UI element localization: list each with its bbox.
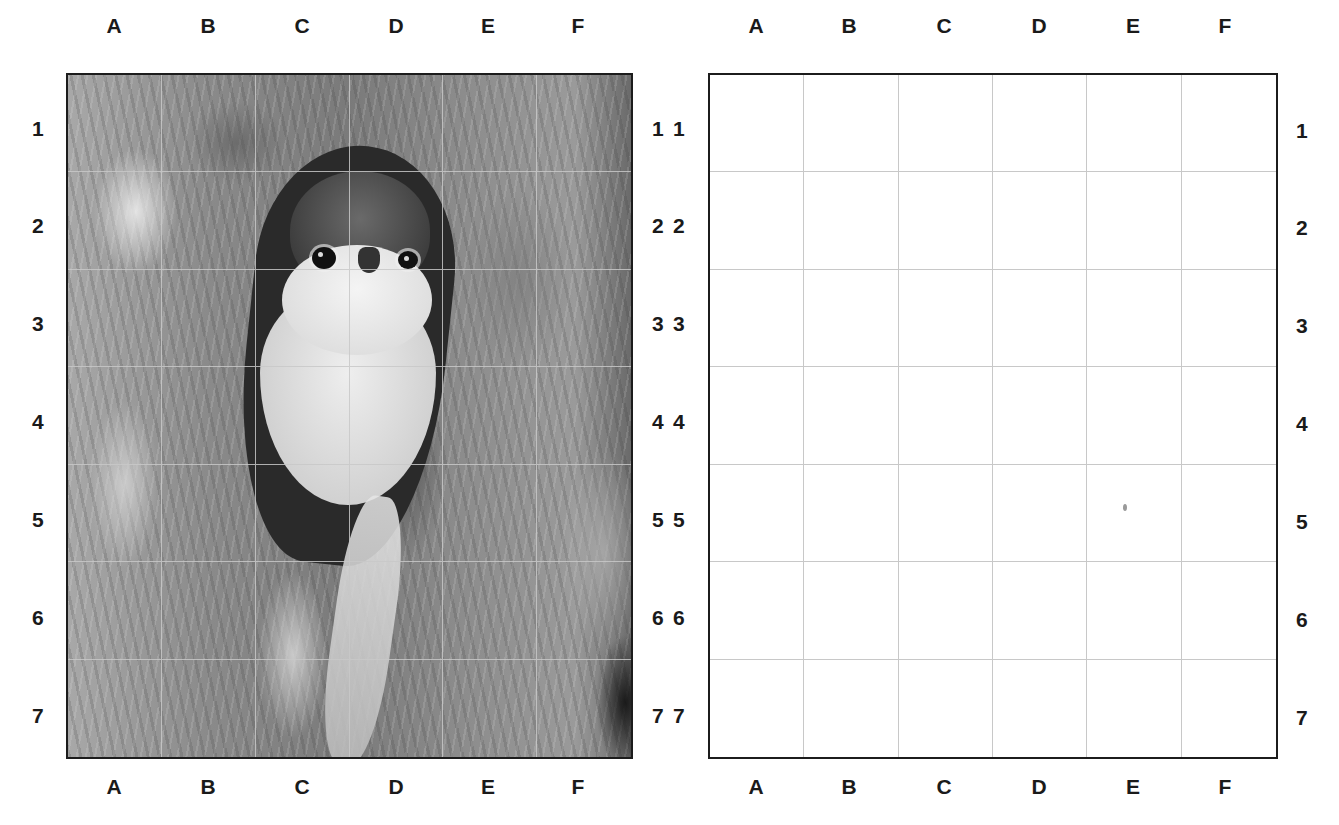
row-label: 3 [652,312,664,336]
cell-A4[interactable] [710,367,804,464]
col-label: C [929,14,959,38]
cell-A2[interactable] [710,172,804,269]
cell-B3[interactable] [804,270,898,367]
col-label: D [1024,14,1054,38]
reference-photo-grid [66,73,633,759]
row-label: 4 [32,410,44,434]
cell-E1[interactable] [1087,75,1181,172]
cell-A3[interactable] [710,270,804,367]
cell-E4[interactable] [1087,367,1181,464]
cell-A1[interactable] [710,75,804,172]
cell-E3[interactable] [1087,270,1181,367]
col-label: D [381,775,411,799]
caption-cut-off [0,0,1339,8]
row-label: 2 [673,214,685,238]
cell-B2[interactable] [804,172,898,269]
col-label: F [563,775,593,799]
cell-C7[interactable] [899,660,993,757]
cell-E2[interactable] [1087,172,1181,269]
row-label: 6 [1296,608,1308,632]
col-label: A [741,775,771,799]
blank-drawing-grid[interactable] [708,73,1278,759]
row-label: 4 [652,410,664,434]
col-label: E [1118,14,1148,38]
col-label: B [193,14,223,38]
col-label: B [193,775,223,799]
row-label: 1 [1296,119,1308,143]
row-label: 7 [652,704,664,728]
cell-D2[interactable] [993,172,1087,269]
row-label: 3 [32,312,44,336]
col-label: F [563,14,593,38]
cell-C5[interactable] [899,465,993,562]
row-label: 3 [673,312,685,336]
cell-F6[interactable] [1182,562,1276,659]
row-label: 5 [652,508,664,532]
cell-F1[interactable] [1182,75,1276,172]
row-label: 6 [652,606,664,630]
cell-D5[interactable] [993,465,1087,562]
cell-A6[interactable] [710,562,804,659]
cell-B1[interactable] [804,75,898,172]
row-label: 1 [32,117,44,141]
row-label: 5 [673,508,685,532]
row-label: 4 [673,410,685,434]
cell-E6[interactable] [1087,562,1181,659]
row-label: 2 [32,214,44,238]
cell-C3[interactable] [899,270,993,367]
cell-C2[interactable] [899,172,993,269]
cell-D6[interactable] [993,562,1087,659]
photo-gridlines [68,75,631,757]
col-label: D [1024,775,1054,799]
row-label: 6 [673,606,685,630]
cell-E5[interactable] [1087,465,1181,562]
row-label: 1 [673,117,685,141]
cell-D7[interactable] [993,660,1087,757]
cell-B4[interactable] [804,367,898,464]
col-label: A [741,14,771,38]
cell-E7[interactable] [1087,660,1181,757]
cell-F7[interactable] [1182,660,1276,757]
cell-C4[interactable] [899,367,993,464]
col-label: A [99,775,129,799]
row-label: 6 [32,606,44,630]
col-label: B [834,14,864,38]
col-label: E [1118,775,1148,799]
col-label: F [1210,14,1240,38]
col-label: E [473,14,503,38]
row-label: 7 [32,704,44,728]
row-label: 5 [1296,510,1308,534]
blank-gridlines [710,75,1276,757]
row-label: 2 [1296,216,1308,240]
cell-C1[interactable] [899,75,993,172]
cell-F3[interactable] [1182,270,1276,367]
cell-C6[interactable] [899,562,993,659]
row-label: 4 [1296,412,1308,436]
cell-F4[interactable] [1182,367,1276,464]
row-label: 7 [673,704,685,728]
row-label: 2 [652,214,664,238]
col-label: A [99,14,129,38]
row-label: 3 [1296,314,1308,338]
col-label: D [381,14,411,38]
col-label: F [1210,775,1240,799]
col-label: C [929,775,959,799]
cell-A7[interactable] [710,660,804,757]
cell-A5[interactable] [710,465,804,562]
cell-D4[interactable] [993,367,1087,464]
col-label: C [287,775,317,799]
cell-B6[interactable] [804,562,898,659]
row-label: 1 [652,117,664,141]
row-label: 5 [32,508,44,532]
col-label: B [834,775,864,799]
cell-F5[interactable] [1182,465,1276,562]
cell-B7[interactable] [804,660,898,757]
col-label: C [287,14,317,38]
cell-B5[interactable] [804,465,898,562]
row-label: 7 [1296,706,1308,730]
cell-D1[interactable] [993,75,1087,172]
col-label: E [473,775,503,799]
cell-D3[interactable] [993,270,1087,367]
cell-F2[interactable] [1182,172,1276,269]
